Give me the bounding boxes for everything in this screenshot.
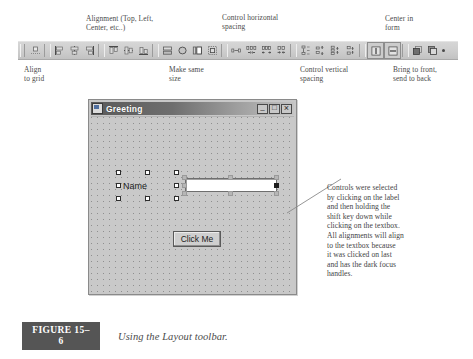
label-handle-middle-right[interactable] xyxy=(174,183,179,188)
textbox-handle-middle-left[interactable] xyxy=(182,183,187,188)
toolbar-button-make-vertical-spacing-equal[interactable] xyxy=(298,43,313,58)
remove-vertical-spacing-icon xyxy=(345,45,356,56)
minimize-button[interactable]: – xyxy=(257,104,268,114)
callout-control-horizontal-spacing: Control horizontal spacing xyxy=(222,13,278,31)
callout-bring-to-front-send-to-back: Bring to front, send to back xyxy=(393,65,437,83)
send-to-back-icon xyxy=(427,45,438,56)
callout-align-to-grid: Align to grid xyxy=(24,65,44,83)
label-handle-bottom-right[interactable] xyxy=(174,196,179,201)
toolbar-drag-handle[interactable] xyxy=(20,44,25,57)
textbox-handle-bottom-center[interactable] xyxy=(228,191,233,196)
toolbar-button-decrease-vertical-spacing[interactable] xyxy=(328,43,343,58)
label-handle-bottom-left[interactable] xyxy=(116,196,121,201)
toolbar-button-align-rights[interactable] xyxy=(82,43,97,58)
make-same-size-icon xyxy=(192,45,203,56)
toolbar-separator xyxy=(221,44,228,57)
callout-alignment: Alignment (Top, Left, Center, etc..) xyxy=(86,14,153,32)
center-vertically-icon xyxy=(388,46,398,56)
figure-page: Alignment (Top, Left, Center, etc..) Con… xyxy=(0,0,473,359)
form-control-label[interactable]: Name xyxy=(119,180,177,192)
toolbar-separator xyxy=(290,44,297,57)
figure-number-badge: FIGURE 15–6 xyxy=(22,322,100,350)
toolbar-button-send-to-back[interactable] xyxy=(425,43,440,58)
make-vertical-spacing-equal-icon xyxy=(300,45,311,56)
maximize-button[interactable]: □ xyxy=(269,104,280,114)
increase-horizontal-spacing-icon xyxy=(246,45,257,56)
align-tops-icon xyxy=(108,45,119,56)
textbox-handle-bottom-left[interactable] xyxy=(182,191,187,196)
increase-vertical-spacing-icon xyxy=(315,45,326,56)
form-title: Greeting xyxy=(106,104,257,114)
close-button[interactable]: × xyxy=(281,104,292,114)
toolbar-button-align-tops[interactable] xyxy=(106,43,121,58)
figure-caption: FIGURE 15–6 Using the Layout toolbar. xyxy=(22,322,228,350)
toolbar-separator xyxy=(44,44,51,57)
toolbar-button-make-same-height[interactable] xyxy=(175,43,190,58)
align-to-grid-icon xyxy=(30,45,41,56)
textbox-handle-top-center[interactable] xyxy=(228,175,233,180)
form-control-click-me-button[interactable]: Click Me xyxy=(173,231,221,247)
toolbar-button-remove-vertical-spacing[interactable] xyxy=(343,43,358,58)
layout-toolbar[interactable] xyxy=(18,41,458,60)
toolbar-button-center-vertically[interactable] xyxy=(384,42,401,59)
make-same-width-icon xyxy=(162,45,173,56)
size-to-grid-icon xyxy=(207,45,218,56)
label-handle-middle-left[interactable] xyxy=(116,183,121,188)
annotation-text: Controls were selected by clicking on th… xyxy=(327,183,467,279)
remove-horizontal-spacing-icon xyxy=(276,45,287,56)
align-rights-icon xyxy=(84,45,95,56)
toolbar-button-increase-vertical-spacing[interactable] xyxy=(313,43,328,58)
textbox-handle-bottom-right[interactable] xyxy=(274,191,279,196)
toolbar-button-make-same-width[interactable] xyxy=(160,43,175,58)
decrease-horizontal-spacing-icon xyxy=(261,45,272,56)
toolbar-button-decrease-horizontal-spacing[interactable] xyxy=(259,43,274,58)
toolbar-separator xyxy=(402,44,409,57)
center-horizontally-icon xyxy=(371,46,381,56)
toolbar-button-align-to-grid[interactable] xyxy=(28,43,43,58)
figure-caption-text: Using the Layout toolbar. xyxy=(118,331,228,342)
textbox-handle-top-left[interactable] xyxy=(182,175,187,180)
close-icon: × xyxy=(282,104,291,112)
align-bottoms-icon xyxy=(138,45,149,56)
toolbar-button-align-bottoms[interactable] xyxy=(136,43,151,58)
window-buttons: – □ × xyxy=(257,104,292,114)
toolbar-button-bring-to-front[interactable] xyxy=(410,43,425,58)
toolbar-overflow-icon[interactable] xyxy=(442,49,445,52)
toolbar-button-size-to-grid[interactable] xyxy=(205,43,220,58)
form-window-icon xyxy=(92,103,103,114)
toolbar-button-increase-horizontal-spacing[interactable] xyxy=(244,43,259,58)
toolbar-button-center-horizontally[interactable] xyxy=(367,42,384,59)
align-middles-icon xyxy=(123,45,134,56)
toolbar-button-make-same-size[interactable] xyxy=(190,43,205,58)
toolbar-button-make-horizontal-spacing-equal[interactable] xyxy=(229,43,244,58)
maximize-icon: □ xyxy=(270,104,279,112)
textbox-handle-middle-right[interactable] xyxy=(274,183,279,188)
align-lefts-icon xyxy=(54,45,65,56)
callout-make-same-size: Make same size xyxy=(169,65,204,83)
toolbar-button-align-centers[interactable] xyxy=(67,43,82,58)
align-centers-icon xyxy=(69,45,80,56)
toolbar-separator xyxy=(98,44,105,57)
label-handle-top-left[interactable] xyxy=(116,170,121,175)
label-handle-bottom-center[interactable] xyxy=(145,196,150,201)
toolbar-button-align-middles[interactable] xyxy=(121,43,136,58)
make-horizontal-spacing-equal-icon xyxy=(231,45,242,56)
form-titlebar[interactable]: Greeting – □ × xyxy=(91,102,294,115)
decrease-vertical-spacing-icon xyxy=(330,45,341,56)
form-design-canvas[interactable]: Name Click Me xyxy=(91,116,294,292)
toolbar-separator xyxy=(359,44,366,57)
form-designer-window[interactable]: Greeting – □ × Name xyxy=(88,99,297,295)
minimize-icon: – xyxy=(258,106,267,114)
callout-center-in-form: Center in form xyxy=(385,14,413,32)
label-handle-top-center[interactable] xyxy=(145,170,150,175)
toolbar-button-align-lefts[interactable] xyxy=(52,43,67,58)
textbox-handle-top-right[interactable] xyxy=(274,175,279,180)
bring-to-front-icon xyxy=(412,45,423,56)
callout-control-vertical-spacing: Control vertical spacing xyxy=(300,65,348,83)
toolbar-separator xyxy=(152,44,159,57)
form-control-textbox[interactable] xyxy=(185,178,277,192)
make-same-height-icon xyxy=(177,45,188,56)
toolbar-button-remove-horizontal-spacing[interactable] xyxy=(274,43,289,58)
label-handle-top-right[interactable] xyxy=(174,170,179,175)
